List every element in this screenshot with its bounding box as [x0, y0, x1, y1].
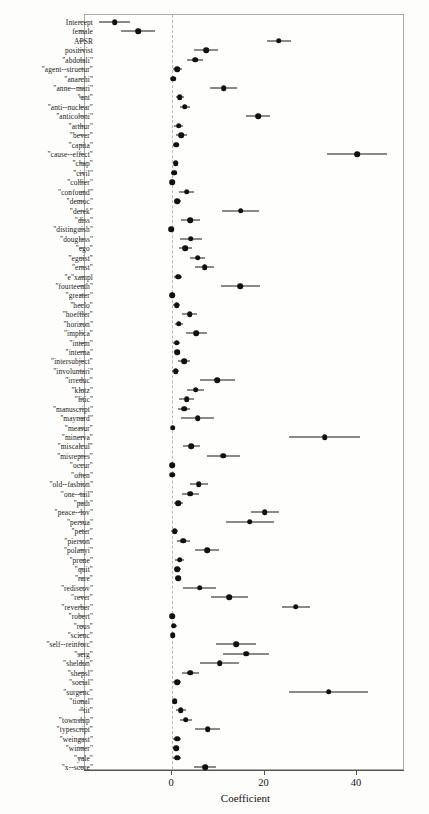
coefficient-point [238, 283, 244, 289]
y-axis-tick [79, 559, 84, 560]
y-axis-tick [79, 663, 84, 664]
y-axis-tick [79, 59, 84, 60]
y-axis-tick [79, 361, 84, 362]
coefficient-point [170, 180, 176, 186]
y-axis-tick [79, 116, 84, 117]
coefficient-point [169, 227, 175, 233]
y-axis-tick [79, 191, 84, 192]
y-axis-tick [79, 399, 84, 400]
y-axis-tick [79, 144, 84, 145]
y-axis-tick [79, 50, 84, 51]
y-axis-tick [79, 767, 84, 768]
coefficient-point [176, 321, 182, 327]
coefficient-point [187, 312, 193, 318]
category-label: "manuscript" [53, 404, 93, 413]
coefficient-point [171, 76, 177, 82]
y-axis-tick [79, 521, 84, 522]
category-label: "involuntari" [53, 366, 93, 375]
coefficient-point [355, 151, 361, 157]
coefficient-point [178, 132, 184, 138]
x-axis-tick-label: 40 [351, 777, 362, 788]
coefficient-point [174, 755, 180, 761]
coefficient-point [276, 38, 282, 44]
y-axis-tick [79, 644, 84, 645]
x-axis-tick [356, 770, 357, 775]
y-axis-tick [79, 154, 84, 155]
category-label: "reverber" [61, 602, 93, 611]
y-axis-tick [79, 125, 84, 126]
y-axis-tick [79, 682, 84, 683]
coefficient-point [173, 368, 179, 374]
coefficient-point [243, 651, 249, 657]
y-axis-tick [79, 436, 84, 437]
coefficient-point [173, 142, 179, 148]
y-axis-tick [79, 276, 84, 277]
category-label: "one--tail" [61, 489, 93, 498]
coefficient-point [172, 528, 178, 534]
coefficient-point [247, 519, 253, 525]
coefficient-point [174, 349, 180, 355]
coefficient-point [202, 264, 208, 270]
y-axis-tick [79, 172, 84, 173]
coefficient-point [188, 236, 194, 242]
y-axis-tick [79, 540, 84, 541]
category-label: "fourteenth" [55, 282, 93, 291]
y-axis-tick [79, 550, 84, 551]
coefficient-point [202, 764, 208, 770]
coefficient-point [192, 57, 198, 63]
x-axis-tick [171, 770, 172, 775]
category-label: "peace--lov" [55, 508, 93, 517]
coefficient-point [188, 670, 194, 676]
y-axis-tick [79, 757, 84, 758]
coefficient-point [171, 623, 177, 629]
coefficient-point [182, 104, 188, 110]
category-label: "x--score" [62, 763, 93, 772]
coefficient-point [181, 538, 187, 544]
category-label: "cause--effect" [47, 150, 93, 159]
y-axis-tick [79, 502, 84, 503]
forest-plot-figure: Coefficient 02040InterceptfemaleAPSRposi… [0, 0, 429, 814]
y-axis-tick [79, 389, 84, 390]
coefficient-point [182, 359, 188, 365]
y-axis-tick [79, 446, 84, 447]
coefficient-point [255, 114, 261, 120]
coefficient-point [184, 396, 190, 402]
category-label: "old--fashion" [49, 480, 93, 489]
y-axis-tick [79, 606, 84, 607]
y-axis-tick [79, 40, 84, 41]
coefficient-point [172, 698, 178, 704]
y-axis-tick [79, 653, 84, 654]
y-axis-tick [79, 484, 84, 485]
coefficient-point [226, 594, 232, 600]
coefficient-point [177, 557, 183, 563]
y-axis-tick [79, 380, 84, 381]
coefficient-point [188, 491, 194, 497]
category-label: "agent--structur" [42, 65, 93, 74]
x-axis-title: Coefficient [0, 792, 429, 804]
coefficient-point [135, 29, 141, 35]
x-axis-title-text: Coefficient [221, 792, 270, 804]
y-axis-tick [79, 672, 84, 673]
y-axis-tick [79, 135, 84, 136]
coefficient-point [170, 425, 176, 431]
category-label: "self--reinforc" [46, 640, 93, 649]
category-label: "misrepres" [57, 451, 93, 460]
y-axis-tick [79, 182, 84, 183]
coefficient-point [175, 198, 181, 204]
coefficient-point [238, 208, 244, 214]
y-axis-tick [79, 568, 84, 569]
coefficient-point [175, 576, 181, 582]
coefficient-point [194, 330, 200, 336]
y-axis-tick [79, 691, 84, 692]
coefficient-point [262, 510, 268, 516]
category-label: "douglass" [60, 234, 93, 243]
coefficient-point [112, 19, 118, 25]
coefficient-point [214, 378, 220, 384]
coefficient-point [170, 462, 176, 468]
y-axis-tick [79, 229, 84, 230]
coefficient-point [169, 613, 175, 619]
y-axis-tick [79, 304, 84, 305]
y-axis-tick [79, 455, 84, 456]
x-axis-tick-label: 20 [258, 777, 269, 788]
category-label: "intersubject" [51, 357, 93, 366]
